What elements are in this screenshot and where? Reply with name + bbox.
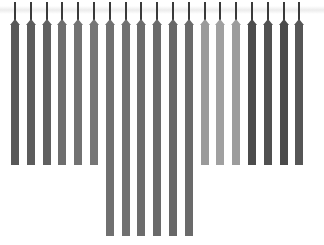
bar-6: [90, 25, 98, 165]
bar-19: [295, 25, 303, 165]
bar-5: [74, 25, 82, 165]
bar-9: [137, 25, 145, 236]
bar-12: [185, 25, 193, 236]
bar-7: [106, 25, 114, 236]
bar-15: [232, 25, 240, 165]
bar-18: [280, 25, 288, 165]
bar-10: [153, 25, 161, 236]
bar-2: [27, 25, 35, 165]
bar-3: [43, 25, 51, 165]
bar-8: [122, 25, 130, 236]
bar-17: [264, 25, 272, 165]
bar-11: [169, 25, 177, 236]
bar-16: [248, 25, 256, 165]
chart-caption: (clipped, illegible): [0, 238, 324, 245]
bar-chart: (clipped, illegible): [0, 0, 324, 245]
bar-1: [11, 25, 19, 165]
bar-14: [216, 25, 224, 165]
top-band: [0, 6, 324, 14]
bar-4: [58, 25, 66, 165]
bar-13: [201, 25, 209, 165]
